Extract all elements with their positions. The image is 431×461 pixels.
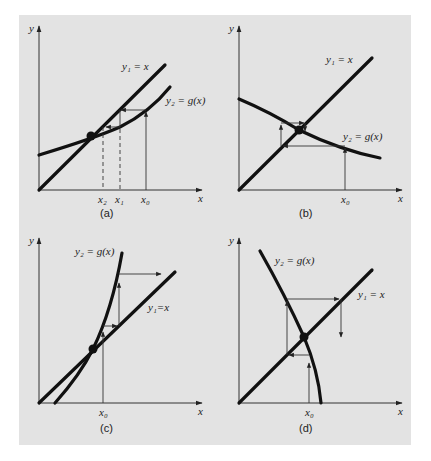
fixed-point [87, 132, 96, 141]
y-axis-label: y [28, 22, 34, 34]
panel-a: y x y₁ = x y₂ = g(x) x₂ x₁ x₀ (a) [28, 22, 206, 219]
x-axis-label: x [197, 405, 203, 417]
curve-label: y₂ = g(x) [274, 254, 315, 267]
fixed-point [300, 333, 309, 342]
curve-label: y₂ = g(x) [74, 245, 115, 258]
curve-g-of-x [239, 99, 380, 158]
curve-label: y₂ = g(x) [342, 130, 383, 143]
y-axis-label: y [228, 22, 234, 34]
line-label: y₁ = x [121, 60, 149, 72]
tick-x0: x₀ [340, 193, 350, 205]
fixed-point-iteration-figure: y x y₁ = x y₂ = g(x) x₂ x₁ x₀ (a) y x [0, 0, 431, 461]
x-axis-label: x [197, 192, 203, 204]
fixed-point [89, 345, 98, 354]
y-axis-label: y [28, 234, 34, 246]
tick-x0: x₀ [304, 406, 314, 418]
caption: (c) [100, 422, 113, 434]
x-axis-label: x [397, 405, 403, 417]
caption: (d) [299, 422, 312, 434]
caption: (b) [299, 207, 312, 219]
line-label: y₁ = x [357, 288, 385, 300]
panel-c: y x y₂ = g(x) y₁=x x₀ (c) [28, 234, 203, 434]
line-y-equals-x [39, 272, 175, 403]
curve-g-of-x [260, 251, 321, 403]
curve-g-of-x [55, 253, 122, 403]
tick-x0: x₀ [98, 406, 108, 418]
line-y-equals-x [239, 58, 372, 190]
caption: (a) [100, 207, 113, 219]
line-label: y₁=x [147, 301, 169, 313]
panel-b: y x y₁ = x y₂ = g(x) x₀ (b) [228, 22, 403, 219]
tick-x1: x₁ [114, 193, 124, 205]
tick-x2: x₂ [97, 193, 107, 205]
fixed-point [295, 126, 304, 135]
curve-label: y₂ = g(x) [165, 94, 206, 107]
y-axis-label: y [228, 234, 234, 246]
panel-d: y x y₂ = g(x) y₁ = x x₀ (d) [228, 234, 403, 434]
line-label: y₁ = x [325, 53, 353, 65]
tick-x0: x₀ [140, 193, 150, 205]
curve-g-of-x [39, 87, 170, 155]
x-axis-label: x [397, 192, 403, 204]
